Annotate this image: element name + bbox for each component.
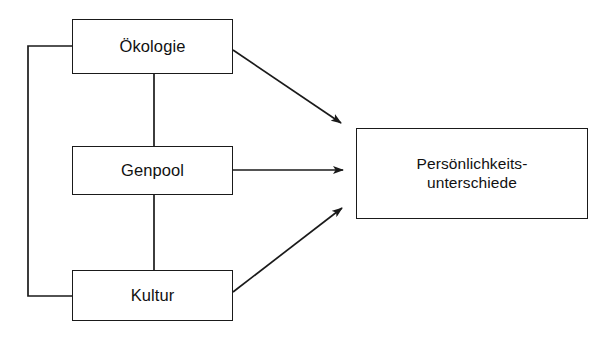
- node-label-oekologie: Ökologie: [120, 36, 186, 56]
- connector-bracket-oekologie-kultur: [28, 46, 72, 296]
- diagram-canvas: Ökologie Genpool Kultur Persönlichkeits-…: [0, 0, 611, 343]
- node-box-persoenlichkeitsunterschiede: Persönlichkeits- unterschiede: [356, 128, 588, 219]
- node-box-genpool: Genpool: [72, 146, 233, 195]
- node-label-persoenlichkeitsunterschiede: Persönlichkeits- unterschiede: [416, 155, 527, 193]
- node-box-kultur: Kultur: [72, 270, 233, 321]
- arrow-kultur-to-persoenlichkeit: [233, 208, 342, 292]
- node-label-kultur: Kultur: [131, 285, 175, 305]
- node-label-genpool: Genpool: [121, 160, 184, 180]
- arrow-oekologie-to-persoenlichkeit: [233, 50, 341, 123]
- node-box-oekologie: Ökologie: [72, 19, 233, 74]
